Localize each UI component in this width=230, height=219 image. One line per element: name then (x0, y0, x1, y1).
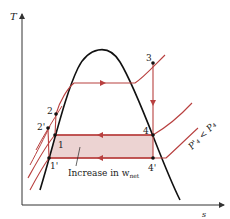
label-point-1p: 1' (50, 161, 58, 171)
label-point-1: 1 (58, 140, 64, 150)
point-2p (46, 126, 50, 130)
point-3 (151, 61, 155, 65)
label-point-2: 2 (47, 106, 53, 116)
point-1 (53, 133, 57, 137)
annotation-sub: net (129, 172, 139, 179)
annotation-text: Increase in wnet (68, 168, 140, 179)
point-4p (151, 156, 155, 160)
t-axis-label: T (10, 11, 18, 22)
label-point-4: 4 (143, 126, 149, 136)
high-pressure-line (56, 55, 165, 114)
shaded-work-area (49, 135, 153, 158)
arrow-turbine (150, 100, 156, 106)
ts-diagram: T s 1 1' 2 2' 3 4 4' Increase in wnet P'… (0, 0, 230, 219)
point-4 (151, 133, 155, 137)
pump-1p-2p (48, 128, 49, 158)
point-1p (47, 156, 51, 160)
point-2 (54, 112, 58, 116)
label-point-2p: 2' (37, 122, 45, 132)
s-axis-label: s (202, 210, 206, 219)
arrow-boiler (100, 80, 106, 86)
label-point-3: 3 (146, 53, 152, 63)
annotation-main: Increase in w (68, 168, 130, 178)
label-point-4p: 4' (148, 163, 156, 173)
